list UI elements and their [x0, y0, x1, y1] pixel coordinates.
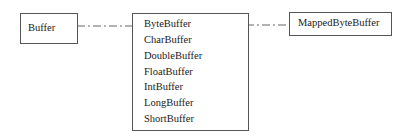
mappedbytebuffer-label: MappedByteBuffer: [298, 17, 379, 28]
mappedbytebuffer-node: MappedByteBuffer: [289, 12, 392, 36]
buffer-node: Buffer: [20, 13, 78, 44]
intbuffer-item: IntBuffer: [144, 81, 183, 92]
buffer-subclasses-node: ByteBuffer CharBuffer DoubleBuffer Float…: [132, 13, 249, 131]
floatbuffer-item: FloatBuffer: [144, 66, 193, 77]
longbuffer-item: LongBuffer: [144, 97, 193, 108]
bytebuffer-item: ByteBuffer: [144, 18, 191, 29]
doublebuffer-item: DoubleBuffer: [144, 50, 202, 61]
shortbuffer-item: ShortBuffer: [144, 113, 194, 124]
charbuffer-item: CharBuffer: [144, 34, 192, 45]
buffer-label: Buffer: [28, 22, 55, 33]
